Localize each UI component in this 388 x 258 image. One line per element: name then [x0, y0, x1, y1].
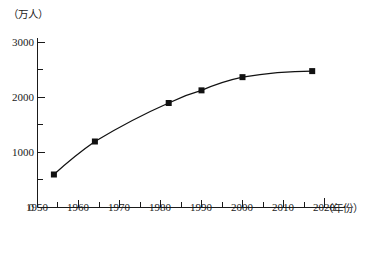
data-point-marker [92, 139, 98, 145]
x-axis-ticks [58, 198, 325, 208]
series-line-population [54, 71, 312, 174]
data-point-marker [166, 100, 172, 106]
population-line-chart: （万人） （年份） 3000 2000 1000 0 1950 1960 197… [0, 0, 388, 258]
axis-lines [38, 38, 346, 208]
chart-plot-area [0, 0, 388, 258]
y-axis-ticks [38, 43, 46, 180]
data-point-marker [51, 172, 57, 178]
data-point-marker [309, 68, 315, 74]
data-point-marker [240, 74, 246, 80]
series-marker-group [51, 68, 315, 177]
data-point-marker [199, 87, 205, 93]
